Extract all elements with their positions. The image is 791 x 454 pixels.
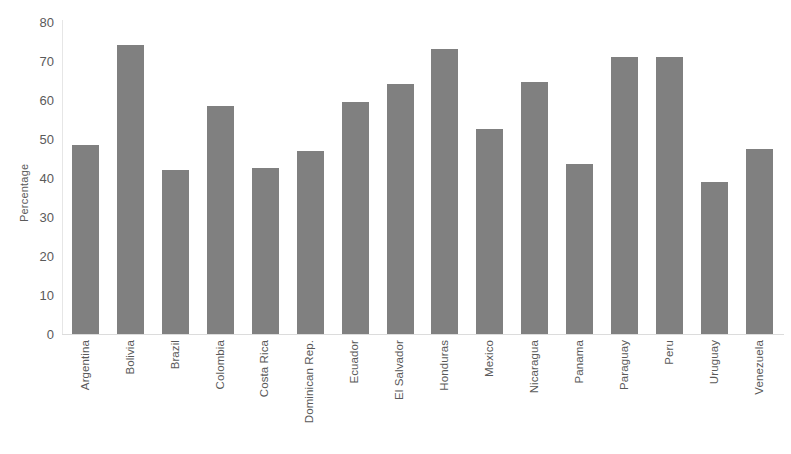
bar[interactable] (611, 57, 638, 334)
bar-slot (63, 22, 108, 334)
bar[interactable] (72, 145, 99, 334)
x-axis-label-slot: Paraguay (602, 340, 647, 390)
x-axis-label-slot: Uruguay (692, 340, 737, 384)
y-axis-tick-label: 70 (40, 55, 54, 68)
bar-slot (557, 22, 602, 334)
bar[interactable] (297, 151, 324, 334)
bar-slot (512, 22, 557, 334)
plot-area: 01020304050607080 (63, 22, 782, 334)
bar-slot (692, 22, 737, 334)
y-axis-title-label: Percentage (18, 164, 30, 222)
bars-group (63, 22, 782, 334)
bar-chart: Percentage 01020304050607080 ArgentinaBo… (0, 0, 791, 454)
bar-slot (378, 22, 423, 334)
bar-slot (198, 22, 243, 334)
y-axis-tick-label: 0 (47, 328, 54, 341)
bar-slot (467, 22, 512, 334)
bar-slot (153, 22, 198, 334)
bar[interactable] (656, 57, 683, 334)
x-axis-tick-label: Nicaragua (529, 340, 541, 393)
x-axis-label-slot: Costa Rica (243, 340, 288, 397)
bar-slot (243, 22, 288, 334)
x-axis-tick-label: Brazil (170, 340, 182, 369)
y-axis-tick-label: 10 (40, 289, 54, 302)
x-axis-label-slot: Venezuela (737, 340, 782, 395)
y-axis-tick-label: 50 (40, 133, 54, 146)
x-axis-tick-label: Dominican Rep. (304, 340, 316, 423)
x-axis-tick-label: Colombia (215, 340, 227, 389)
x-axis-label-slot: Bolivia (108, 340, 153, 375)
x-axis-line (62, 334, 784, 335)
x-axis-label-slot: Brazil (153, 340, 198, 369)
bar-slot (108, 22, 153, 334)
y-axis-tick-label: 60 (40, 94, 54, 107)
x-axis-labels: ArgentinaBoliviaBrazilColombiaCosta Rica… (63, 340, 782, 454)
y-axis-tick-label: 30 (40, 211, 54, 224)
x-axis-tick-label: Bolivia (125, 340, 137, 375)
bar-slot (333, 22, 378, 334)
bar-slot (423, 22, 468, 334)
bar[interactable] (387, 84, 414, 334)
bar[interactable] (431, 49, 458, 334)
y-axis-tick-label: 40 (40, 172, 54, 185)
x-axis-label-slot: Argentina (63, 340, 108, 390)
x-axis-label-slot: El Salvador (378, 340, 423, 400)
bar[interactable] (521, 82, 548, 334)
x-axis-tick-label: Costa Rica (259, 340, 271, 397)
x-axis-tick-label: Ecuador (349, 340, 361, 384)
bar[interactable] (566, 164, 593, 334)
x-axis-tick-label: Argentina (80, 340, 92, 390)
x-axis-label-slot: Dominican Rep. (288, 340, 333, 423)
x-axis-tick-label: Panama (574, 340, 586, 383)
x-axis-label-slot: Nicaragua (512, 340, 557, 393)
x-axis-tick-label: Mexico (484, 340, 496, 377)
bar[interactable] (701, 182, 728, 334)
y-axis-tick-label: 80 (40, 16, 54, 29)
bar-slot (602, 22, 647, 334)
x-axis-label-slot: Ecuador (333, 340, 378, 384)
y-axis-tick-label: 20 (40, 250, 54, 263)
bar[interactable] (476, 129, 503, 334)
y-axis-title: Percentage (6, 0, 18, 110)
x-axis-tick-label: El Salvador (394, 340, 406, 400)
x-axis-label-slot: Peru (647, 340, 692, 365)
x-axis-label-slot: Honduras (423, 340, 468, 391)
x-axis-tick-label: Venezuela (754, 340, 766, 395)
bar-slot (647, 22, 692, 334)
bar[interactable] (207, 106, 234, 334)
bar-slot (737, 22, 782, 334)
bar-slot (288, 22, 333, 334)
bar[interactable] (252, 168, 279, 334)
x-axis-tick-label: Honduras (439, 340, 451, 391)
x-axis-label-slot: Colombia (198, 340, 243, 389)
bar[interactable] (342, 102, 369, 334)
x-axis-tick-label: Paraguay (619, 340, 631, 390)
bar[interactable] (746, 149, 773, 334)
x-axis-label-slot: Mexico (467, 340, 512, 377)
bar[interactable] (117, 45, 144, 334)
bar[interactable] (162, 170, 189, 334)
x-axis-tick-label: Uruguay (709, 340, 721, 384)
x-axis-tick-label: Peru (664, 340, 676, 365)
x-axis-label-slot: Panama (557, 340, 602, 383)
